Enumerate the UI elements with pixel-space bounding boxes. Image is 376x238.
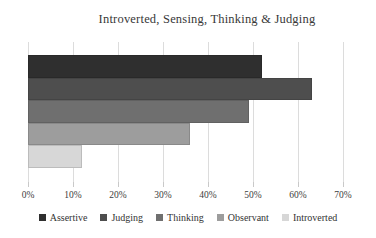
- x-tick-label: 40%: [188, 190, 228, 200]
- x-tick-mark: [28, 182, 29, 187]
- bar-chart: Introverted, Sensing, Thinking & Judging…: [0, 0, 376, 238]
- x-tick-mark: [73, 182, 74, 187]
- gridline: [298, 42, 299, 182]
- x-tick-label: 30%: [143, 190, 183, 200]
- legend-item-assertive: Assertive: [39, 212, 88, 223]
- legend-label: Judging: [111, 212, 143, 223]
- legend-item-judging: Judging: [100, 212, 143, 223]
- x-tick-mark: [118, 182, 119, 187]
- legend-label: Observant: [228, 212, 269, 223]
- bar-judging: [28, 78, 312, 101]
- legend: AssertiveJudgingThinkingObservantIntrove…: [0, 212, 376, 223]
- x-tick-label: 10%: [53, 190, 93, 200]
- legend-item-observant: Observant: [217, 212, 269, 223]
- x-tick-mark: [343, 182, 344, 187]
- legend-swatch-icon: [39, 214, 46, 221]
- x-tick-mark: [163, 182, 164, 187]
- legend-swatch-icon: [217, 214, 224, 221]
- legend-label: Assertive: [50, 212, 88, 223]
- x-tick-label: 0%: [8, 190, 48, 200]
- chart-title: Introverted, Sensing, Thinking & Judging: [0, 12, 376, 27]
- legend-item-thinking: Thinking: [156, 212, 204, 223]
- legend-item-introverted: Introverted: [282, 212, 337, 223]
- x-tick-label: 70%: [323, 190, 363, 200]
- legend-label: Introverted: [293, 212, 337, 223]
- legend-swatch-icon: [282, 214, 289, 221]
- x-tick-mark: [253, 182, 254, 187]
- x-tick-label: 50%: [233, 190, 273, 200]
- bar-introverted: [28, 145, 82, 168]
- bar-observant: [28, 123, 190, 146]
- legend-swatch-icon: [100, 214, 107, 221]
- bar-thinking: [28, 100, 249, 123]
- bar-assertive: [28, 55, 262, 78]
- plot-area: [28, 42, 343, 182]
- gridline: [343, 42, 344, 182]
- legend-label: Thinking: [167, 212, 204, 223]
- legend-swatch-icon: [156, 214, 163, 221]
- x-tick-label: 60%: [278, 190, 318, 200]
- x-tick-label: 20%: [98, 190, 138, 200]
- x-tick-mark: [298, 182, 299, 187]
- x-tick-mark: [208, 182, 209, 187]
